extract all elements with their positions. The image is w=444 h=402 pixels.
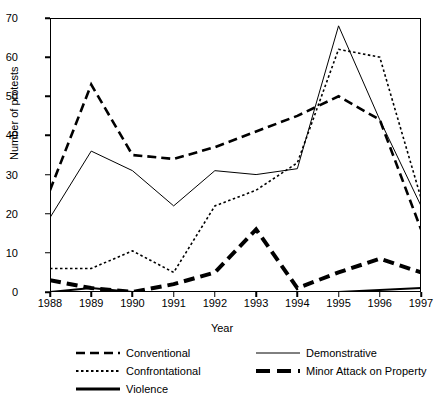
x-axis-tick-mark bbox=[90, 292, 92, 297]
x-axis-tick-mark bbox=[173, 292, 175, 297]
x-axis-tick-label: 1991 bbox=[154, 297, 194, 309]
x-axis-tick-mark bbox=[49, 292, 51, 297]
protest-chart-figure: Number of protests 010203040506070198819… bbox=[0, 0, 444, 402]
y-axis-tick-mark bbox=[45, 174, 50, 176]
legend-swatch-violence bbox=[76, 383, 120, 395]
x-axis-tick-label: 1990 bbox=[112, 297, 152, 309]
legend-item-conventional: Conventional bbox=[76, 347, 190, 359]
x-axis-tick-label: 1989 bbox=[71, 297, 111, 309]
legend-swatch-confrontational bbox=[76, 365, 120, 377]
x-axis-tick-label: 1995 bbox=[319, 297, 359, 309]
y-axis-tick-mark bbox=[45, 17, 50, 19]
x-axis-tick-label: 1988 bbox=[30, 297, 70, 309]
y-axis-tick-mark bbox=[45, 213, 50, 215]
legend-label-demonstrative: Demonstrative bbox=[306, 347, 377, 359]
y-axis-tick-label: 30 bbox=[0, 169, 18, 181]
series-line-conventional bbox=[50, 85, 421, 230]
x-axis-tick-mark bbox=[379, 292, 381, 297]
legend-item-demonstrative: Demonstrative bbox=[256, 347, 377, 359]
y-axis-tick-label: 70 bbox=[0, 12, 18, 24]
legend-item-violence: Violence bbox=[76, 383, 168, 395]
x-axis-title: Year bbox=[0, 322, 444, 334]
series-line-confrontational bbox=[50, 49, 421, 272]
x-axis-tick-mark bbox=[214, 292, 216, 297]
legend-swatch-demonstrative bbox=[256, 347, 300, 359]
legend-item-minor-attack-on-property: Minor Attack on Property bbox=[256, 365, 426, 377]
x-axis-tick-mark bbox=[420, 292, 422, 297]
chart-lines bbox=[50, 18, 421, 292]
y-axis-tick-label: 40 bbox=[0, 129, 18, 141]
x-axis-tick-mark bbox=[297, 292, 299, 297]
y-axis-tick-mark bbox=[45, 96, 50, 98]
legend-label-conventional: Conventional bbox=[126, 347, 190, 359]
y-axis-tick-mark bbox=[45, 135, 50, 137]
y-axis-tick-label: 50 bbox=[0, 90, 18, 102]
x-axis-tick-label: 1996 bbox=[360, 297, 400, 309]
y-axis-tick-label: 60 bbox=[0, 51, 18, 63]
x-axis-tick-label: 1994 bbox=[277, 297, 317, 309]
y-axis-tick-mark bbox=[45, 56, 50, 58]
x-axis-tick-label: 1997 bbox=[401, 297, 441, 309]
x-axis-tick-label: 1992 bbox=[195, 297, 235, 309]
chart-legend: Conventional Confrontational Violence De… bbox=[0, 345, 444, 402]
y-axis-tick-label: 10 bbox=[0, 247, 18, 259]
legend-label-violence: Violence bbox=[126, 383, 168, 395]
plot-area bbox=[50, 18, 421, 292]
series-line-demonstrative bbox=[50, 26, 421, 218]
y-axis-tick-label: 20 bbox=[0, 208, 18, 220]
x-axis-tick-mark bbox=[255, 292, 257, 297]
legend-item-confrontational: Confrontational bbox=[76, 365, 201, 377]
y-axis-tick-label: 0 bbox=[0, 286, 18, 298]
x-axis-tick-label: 1993 bbox=[236, 297, 276, 309]
legend-label-confrontational: Confrontational bbox=[126, 365, 201, 377]
y-axis-title: Number of protests bbox=[8, 66, 20, 160]
legend-swatch-minor-attack-on-property bbox=[256, 365, 300, 377]
series-line-minor-attack-on-property bbox=[50, 229, 421, 292]
legend-label-minor-attack-on-property: Minor Attack on Property bbox=[306, 365, 426, 377]
legend-swatch-conventional bbox=[76, 347, 120, 359]
x-axis-tick-mark bbox=[132, 292, 134, 297]
x-axis-tick-mark bbox=[338, 292, 340, 297]
y-axis-tick-mark bbox=[45, 252, 50, 254]
